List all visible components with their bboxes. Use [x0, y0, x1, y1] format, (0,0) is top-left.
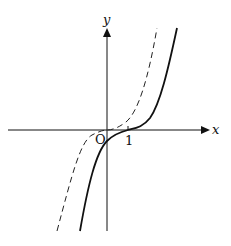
- tick-label-1: 1: [125, 133, 133, 148]
- plot-svg: y x O 1: [0, 0, 231, 246]
- y-axis-label: y: [102, 12, 111, 27]
- x-axis-arrow-icon: [201, 126, 210, 134]
- y-axis-arrow-icon: [103, 28, 111, 37]
- origin-label: O: [95, 132, 106, 147]
- x-axis-label: x: [212, 122, 220, 137]
- graph: y x O 1: [0, 0, 231, 246]
